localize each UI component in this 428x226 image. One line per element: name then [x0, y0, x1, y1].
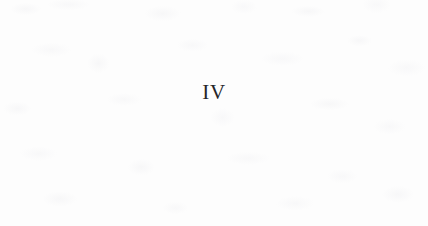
roman-numeral-text: IV	[202, 82, 225, 102]
paper-grain-texture	[0, 0, 428, 226]
scanned-page: IV	[0, 0, 428, 226]
part-divider-heading: IV	[0, 82, 428, 103]
